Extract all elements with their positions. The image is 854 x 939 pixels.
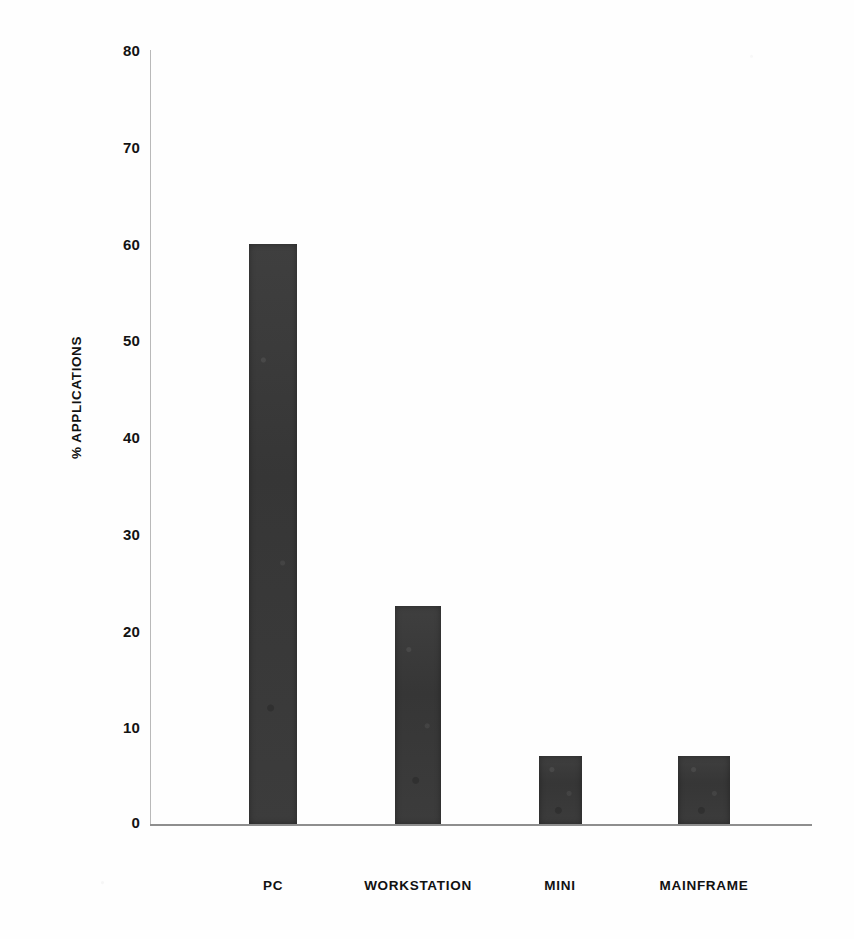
y-tick-label: 0: [80, 814, 140, 831]
y-tick-label: 20: [80, 622, 140, 639]
y-tick-label: 60: [80, 235, 140, 252]
y-tick-label: 70: [80, 138, 140, 155]
x-axis-line: [150, 824, 812, 826]
y-tick-label: 30: [80, 525, 140, 542]
y-tick-label: 50: [80, 332, 140, 349]
y-axis-tick-labels: 80 70 60 50 40 30 20 10 0: [68, 0, 140, 939]
y-tick-label: 80: [80, 42, 140, 59]
x-tick-label-pc: PC: [263, 878, 283, 893]
x-tick-label-mini: MINI: [544, 878, 575, 893]
y-tick-label: 10: [80, 719, 140, 736]
x-tick-label-workstation: WORKSTATION: [364, 878, 472, 893]
x-tick-label-mainframe: MAINFRAME: [660, 878, 749, 893]
bar-mini: [539, 756, 582, 824]
y-tick-label: 40: [80, 429, 140, 446]
bar-workstation: [395, 606, 441, 824]
bar-pc: [249, 244, 297, 825]
plot-area: [150, 50, 810, 824]
bar-mainframe: [678, 756, 730, 824]
bar-chart: % APPLICATIONS 80 70 60 50 40 30 20 10 0…: [0, 0, 854, 939]
